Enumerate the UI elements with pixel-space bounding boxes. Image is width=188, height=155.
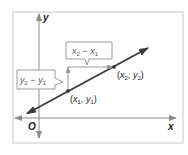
point-2-marker bbox=[112, 65, 116, 69]
slope-diagram: y x O (x1, y1) (x2, y2) x2 − x1 y2 − y1 bbox=[0, 0, 188, 155]
y-axis-label: y bbox=[42, 12, 49, 23]
run-callout-text: x2 − x1 bbox=[71, 46, 99, 57]
rise-callout-text: y2 − y1 bbox=[19, 75, 47, 86]
point-1-marker bbox=[66, 89, 70, 93]
origin-label: O bbox=[28, 121, 36, 132]
x-axis-label: x bbox=[167, 121, 174, 132]
